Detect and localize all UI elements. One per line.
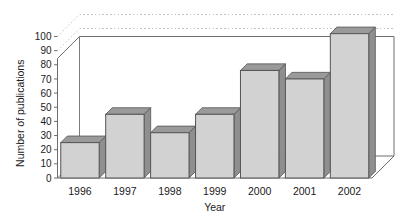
x-tick-label: 1997 bbox=[113, 185, 137, 197]
x-tick-label: 1998 bbox=[158, 185, 182, 197]
y-tick-label: 90 bbox=[40, 45, 52, 56]
bar-side-face bbox=[324, 72, 331, 178]
y-tick-label: 70 bbox=[40, 74, 52, 85]
bar-front-face bbox=[285, 79, 323, 178]
bar-front-face bbox=[61, 143, 99, 178]
bar-side-face bbox=[234, 108, 241, 178]
bar-front-face bbox=[196, 114, 234, 178]
bar-1997 bbox=[106, 108, 151, 178]
bar-top-face bbox=[196, 108, 241, 115]
y-tick-label: 20 bbox=[40, 144, 52, 155]
bar-side-face bbox=[189, 126, 196, 178]
bar-2002 bbox=[330, 27, 375, 178]
y-tick-label: 60 bbox=[40, 88, 52, 99]
bar-top-face bbox=[240, 64, 285, 71]
bar-side-face bbox=[144, 108, 151, 178]
x-axis-tick-labels: 1996199719981999200020012002 bbox=[68, 185, 361, 197]
y-tick-label: 0 bbox=[46, 173, 52, 184]
bar-side-face bbox=[99, 136, 106, 178]
x-axis-title: Year bbox=[204, 201, 226, 213]
bar-side-face bbox=[279, 64, 286, 178]
bar-top-face bbox=[285, 72, 330, 79]
bar-1996 bbox=[61, 136, 106, 178]
x-tick-label: 2002 bbox=[338, 185, 362, 197]
y-tick-label: 50 bbox=[40, 102, 52, 113]
bar-top-face bbox=[106, 108, 151, 115]
bar-side-face bbox=[369, 27, 376, 178]
chart-canvas: 0102030405060708090100 19961997199819992… bbox=[0, 0, 401, 224]
bar-1999 bbox=[196, 108, 241, 178]
x-tick-label: 1999 bbox=[203, 185, 227, 197]
bar-front-face bbox=[106, 114, 144, 178]
bar-top-face bbox=[151, 126, 196, 133]
bar-chart-figure: 0102030405060708090100 19961997199819992… bbox=[0, 0, 401, 224]
bar-front-face bbox=[240, 70, 278, 178]
y-axis-tick-labels: 0102030405060708090100 bbox=[35, 31, 52, 184]
bar-top-face bbox=[330, 27, 375, 34]
x-tick-label: 2000 bbox=[248, 185, 272, 197]
y-tick-label: 100 bbox=[35, 31, 52, 42]
y-axis-title: Number of publications bbox=[14, 60, 26, 167]
bar-top-face bbox=[61, 136, 106, 143]
y-tick-label: 30 bbox=[40, 130, 52, 141]
bar-2000 bbox=[240, 64, 285, 178]
y-tick-label: 80 bbox=[40, 59, 52, 70]
x-tick-label: 2001 bbox=[293, 185, 317, 197]
x-tick-label: 1996 bbox=[68, 185, 92, 197]
bar-2001 bbox=[285, 72, 330, 178]
bar-1998 bbox=[151, 126, 196, 178]
y-tick-label: 10 bbox=[40, 158, 52, 169]
y-tick-label: 40 bbox=[40, 116, 52, 127]
bar-front-face bbox=[330, 34, 368, 178]
bar-front-face bbox=[151, 133, 189, 178]
